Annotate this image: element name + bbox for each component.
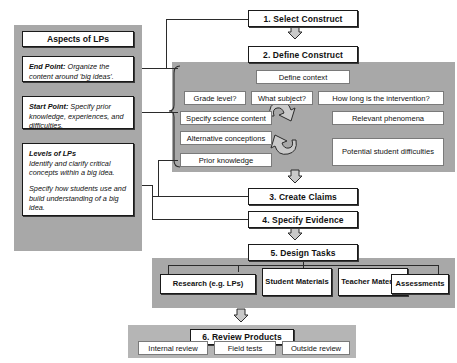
step-4-specify-evidence[interactable]: 4. Specify Evidence bbox=[248, 211, 358, 228]
left-item-alternative-conceptions[interactable]: Alternative conceptions bbox=[180, 131, 272, 145]
left-panel-title: Aspects of LPs bbox=[22, 31, 134, 47]
define-context-box[interactable]: Define context bbox=[256, 70, 350, 84]
arrow-tasks-to-review bbox=[234, 309, 248, 322]
step-2-define-construct[interactable]: 2. Define Construct bbox=[248, 46, 358, 63]
task-box-assessments[interactable]: Assessments bbox=[391, 274, 449, 294]
task-box-student-materials[interactable]: Student Materials bbox=[262, 268, 332, 296]
context-item-grade-level[interactable]: Grade level? bbox=[184, 91, 246, 105]
arrow-step1-to-step2 bbox=[288, 26, 302, 39]
task-box-research[interactable]: Research (e.g. LPs) bbox=[160, 274, 256, 294]
learning-progression-flow-diagram: Aspects of LPs End Point: Organize the c… bbox=[0, 0, 457, 363]
start-point-label: Start Point: bbox=[29, 102, 68, 111]
left-item-specify-science-content[interactable]: Specify science content bbox=[180, 111, 272, 125]
aspect-box-end-point: End Point: Organize the content around '… bbox=[22, 56, 134, 82]
step-1-select-construct[interactable]: 1. Select Construct bbox=[248, 10, 358, 27]
context-item-intervention-length[interactable]: How long is the intervention? bbox=[318, 91, 444, 105]
arrow-step4-to-step5 bbox=[288, 227, 302, 240]
step-3-create-claims[interactable]: 3. Create Claims bbox=[248, 188, 358, 205]
levels-of-lps-text-2: Specify how students use and build under… bbox=[29, 184, 127, 213]
context-item-what-subject[interactable]: What subject? bbox=[251, 91, 313, 105]
review-item-field-tests[interactable]: Field tests bbox=[214, 341, 276, 355]
levels-of-lps-label: Levels of LPs bbox=[29, 149, 76, 158]
right-item-potential-student-difficulties[interactable]: Potential student difficulties bbox=[332, 138, 444, 166]
review-item-outside-review[interactable]: Outside review bbox=[282, 341, 350, 355]
levels-of-lps-text: Identify and clarify critical concepts w… bbox=[29, 159, 127, 178]
end-point-label: End Point: bbox=[29, 62, 65, 71]
aspect-box-start-point: Start Point: Specify prior knowledge, ex… bbox=[22, 96, 134, 129]
review-item-internal-review[interactable]: Internal review bbox=[138, 341, 208, 355]
left-item-prior-knowledge[interactable]: Prior knowledge bbox=[180, 153, 272, 167]
aspect-box-levels-of-lps: Levels of LPs Identify and clarify criti… bbox=[22, 143, 134, 216]
step-5-design-tasks[interactable]: 5. Design Tasks bbox=[248, 244, 358, 261]
right-item-relevant-phenomena[interactable]: Relevant phenomena bbox=[332, 111, 444, 125]
